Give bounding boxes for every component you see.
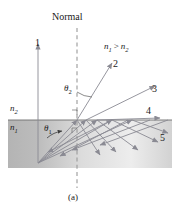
medium-lower-subscript: 1 — [15, 127, 18, 134]
ray-label-4: 4 — [146, 106, 151, 116]
inequality-operator: > — [112, 41, 121, 51]
figure-caption: (a) — [68, 193, 78, 202]
diagram-canvas — [0, 0, 178, 221]
theta1-label: θ1 — [44, 124, 52, 135]
medium-upper-subscript: 2 — [15, 108, 18, 115]
ray-label-3: 3 — [152, 84, 157, 94]
normal-label: Normal — [52, 12, 83, 22]
theta1-subscript: 1 — [48, 128, 51, 135]
ray-label-1: 1 — [35, 38, 40, 48]
refraction-figure: Normal n2 n1 n1>n2 θ2 θ1 1 2 3 4 5 (a) — [0, 0, 178, 221]
index-inequality: n1>n2 — [104, 42, 129, 53]
ray-label-5: 5 — [160, 133, 165, 143]
ray-3-refracted — [86, 86, 155, 120]
theta2-label: θ2 — [64, 84, 72, 95]
ray-2-refracted — [77, 63, 112, 120]
ray-label-2: 2 — [113, 59, 118, 69]
medium-lower-label: n1 — [10, 123, 18, 134]
inequality-right-subscript: 2 — [125, 46, 128, 53]
theta2-subscript: 2 — [68, 88, 71, 95]
medium-upper-label: n2 — [10, 104, 18, 115]
